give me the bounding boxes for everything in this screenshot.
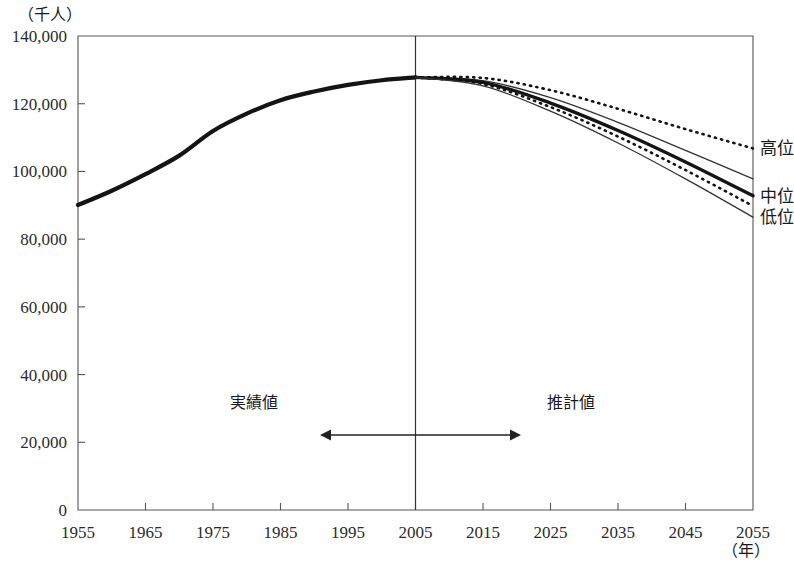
x-tick-label: 1965	[129, 523, 163, 542]
y-tick-label: 120,000	[12, 95, 67, 114]
x-tick-label: 2045	[669, 523, 703, 542]
series-label-高位: 高位	[760, 139, 794, 158]
series-line-高位	[416, 77, 754, 149]
y-tick-label: 100,000	[12, 162, 67, 181]
y-axis-unit-label: （千人）	[18, 6, 82, 23]
series-line-低位	[416, 77, 754, 217]
y-tick-label: 140,000	[12, 27, 67, 46]
y-tick-label: 20,000	[20, 433, 67, 452]
x-axis-unit-label: （年）	[722, 542, 770, 559]
series-line-中位-補助	[416, 77, 754, 206]
series-label-中位: 中位	[760, 187, 794, 206]
y-tick-label: 80,000	[20, 230, 67, 249]
x-tick-label: 1975	[196, 523, 230, 542]
x-tick-label: 1985	[264, 523, 298, 542]
y-tick-label: 60,000	[20, 298, 67, 317]
arrow-head-left	[320, 430, 331, 441]
x-tick-label: 2015	[466, 523, 500, 542]
chart-canvas: 020,00040,00060,00080,000100,000120,0001…	[0, 0, 794, 571]
series-label-低位: 低位	[760, 208, 794, 227]
x-tick-label: 1995	[331, 523, 365, 542]
x-tick-label: 2025	[534, 523, 568, 542]
y-tick-label: 0	[59, 501, 68, 520]
population-projection-chart: 020,00040,00060,00080,000100,000120,0001…	[0, 0, 794, 571]
annotation-actual-region: 実績値	[230, 394, 278, 411]
x-tick-label: 2055	[736, 523, 770, 542]
y-tick-label: 40,000	[20, 366, 67, 385]
series-line-高位-補助	[416, 77, 754, 178]
annotation-estimate-region: 推計値	[547, 394, 595, 411]
series-line-実績値	[78, 77, 416, 205]
x-tick-label: 2035	[601, 523, 635, 542]
x-tick-label: 1955	[61, 523, 95, 542]
x-tick-label: 2005	[399, 523, 433, 542]
arrow-head-right	[510, 430, 521, 441]
